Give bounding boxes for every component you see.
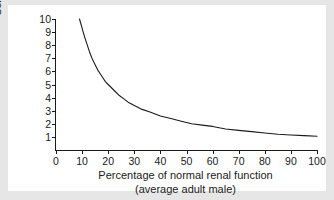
x-axis-title: Percentage of normal renal function (ave… — [55, 168, 316, 196]
y-axis-tick-label: 2 — [31, 119, 51, 130]
serum-creatinine-curve — [79, 19, 317, 136]
y-axis-tick-label: 5 — [31, 79, 51, 90]
y-axis-tick-label: 1 — [31, 132, 51, 143]
x-axis-tick-mark — [213, 150, 214, 154]
x-axis-title-line2: (average adult male) — [55, 182, 316, 196]
x-axis-tick-label: 50 — [181, 156, 193, 167]
y-axis-tick-label: 7 — [31, 53, 51, 64]
y-axis-tick-label: 6 — [31, 66, 51, 77]
y-axis-tick-mark — [52, 32, 56, 33]
x-axis-tick-label: 10 — [76, 156, 88, 167]
y-axis-tick-mark — [52, 58, 56, 59]
y-axis-tick-mark — [52, 124, 56, 125]
y-axis-tick-mark — [52, 45, 56, 46]
x-axis-tick-mark — [291, 150, 292, 154]
y-axis-tick-mark — [52, 19, 56, 20]
x-axis-tick-label: 60 — [207, 156, 219, 167]
y-axis-tick-label: 8 — [31, 40, 51, 51]
x-axis-tick-mark — [187, 150, 188, 154]
y-axis-title: Serum creatinine (mg/dl) — [0, 0, 4, 23]
y-axis-tick-mark — [52, 71, 56, 72]
x-axis-tick-mark — [317, 150, 318, 154]
plot-area: 010203040506070809010012345678910 — [55, 19, 317, 151]
y-axis-tick-label: 9 — [31, 27, 51, 38]
x-axis-tick-label: 100 — [308, 156, 326, 167]
y-axis-tick-label: 10 — [31, 14, 51, 25]
y-axis-tick-mark — [52, 137, 56, 138]
y-axis-tick-mark — [52, 98, 56, 99]
x-axis-tick-label: 80 — [259, 156, 271, 167]
x-axis-tick-label: 70 — [233, 156, 245, 167]
x-axis-tick-mark — [160, 150, 161, 154]
chart-panel: Serum creatinine (mg/dl) 010203040506070… — [8, 5, 326, 191]
x-axis-tick-label: 90 — [285, 156, 297, 167]
y-axis-tick-mark — [52, 111, 56, 112]
x-axis-tick-mark — [108, 150, 109, 154]
chart-figure: Serum creatinine (mg/dl) 010203040506070… — [0, 0, 334, 200]
y-axis-tick-mark — [52, 85, 56, 86]
x-axis-tick-mark — [265, 150, 266, 154]
x-axis-tick-mark — [82, 150, 83, 154]
x-axis-tick-mark — [134, 150, 135, 154]
x-axis-tick-label: 20 — [102, 156, 114, 167]
x-axis-tick-label: 0 — [53, 156, 59, 167]
data-line-svg — [56, 19, 317, 150]
x-axis-tick-mark — [56, 150, 57, 154]
x-axis-tick-mark — [239, 150, 240, 154]
y-axis-tick-label: 4 — [31, 92, 51, 103]
x-axis-tick-label: 30 — [128, 156, 140, 167]
y-axis-tick-label: 3 — [31, 105, 51, 116]
x-axis-title-line1: Percentage of normal renal function — [55, 168, 316, 182]
x-axis-tick-label: 40 — [155, 156, 167, 167]
